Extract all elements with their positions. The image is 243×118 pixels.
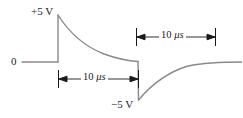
peak-voltage-label: +5 V xyxy=(31,6,53,17)
dim1-unit-s: s xyxy=(101,71,105,82)
dimension-label-2: 10 μs xyxy=(159,30,186,41)
dimension-label-1: 10 μs xyxy=(81,72,108,83)
trough-voltage-label: −5 V xyxy=(111,99,133,110)
dim1-value: 10 xyxy=(83,71,94,82)
dim2-left-arrowhead xyxy=(137,34,145,40)
dim1-right-arrowhead xyxy=(130,76,138,82)
waveform-trace xyxy=(22,15,242,100)
negative-recovery-curve xyxy=(139,62,243,100)
dim1-left-arrowhead xyxy=(59,76,67,82)
dim2-right-arrowhead xyxy=(207,34,215,40)
positive-decay-curve xyxy=(58,15,138,62)
waveform-figure: +5 V 0 −5 V 10 μs 10 μs xyxy=(0,0,242,118)
zero-level-label: 0 xyxy=(11,56,17,67)
dim2-unit-s: s xyxy=(179,29,183,40)
dim2-value: 10 xyxy=(161,29,172,40)
